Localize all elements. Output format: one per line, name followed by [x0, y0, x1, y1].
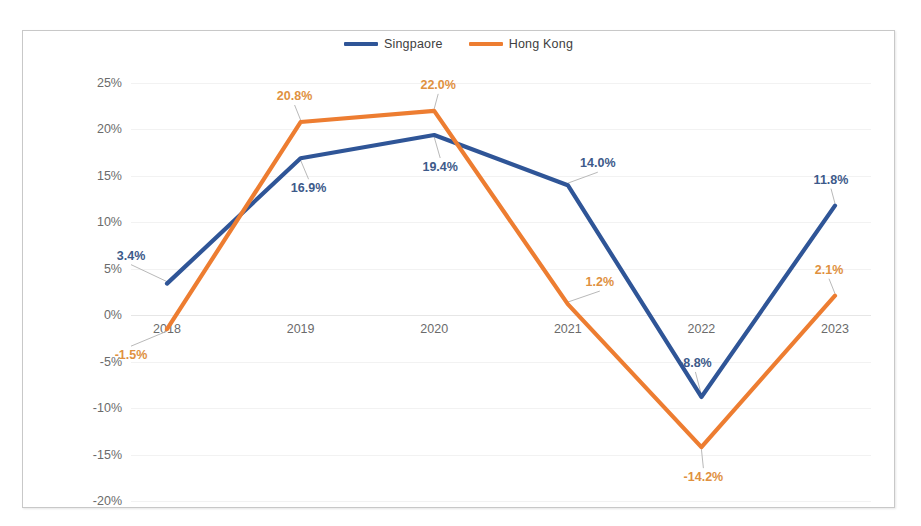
data-label-leader-line	[295, 105, 301, 120]
data-label-leader-line	[434, 94, 438, 109]
y-axis-tick-label: -15%	[93, 448, 122, 462]
y-axis-tick-label: 20%	[97, 122, 122, 136]
y-axis-tick-label: -20%	[93, 494, 122, 508]
series-layer	[131, 83, 871, 501]
data-label: 1.2%	[586, 275, 615, 289]
data-label-leader-line	[131, 265, 167, 282]
bottom-cutoff-caption	[26, 514, 486, 526]
data-label-leader-line	[301, 160, 309, 179]
data-label: 22.0%	[420, 78, 455, 92]
data-label: 11.8%	[814, 173, 849, 187]
y-axis-tick-label: 5%	[104, 262, 122, 276]
data-label: 3.4%	[117, 249, 146, 263]
legend-swatch-hong-kong	[469, 42, 503, 46]
data-label-leader-line	[701, 449, 703, 468]
data-label-leader-line	[131, 331, 167, 346]
legend-swatch-singapore	[344, 42, 378, 46]
legend-item-hong-kong[interactable]: Hong Kong	[469, 37, 573, 51]
data-label-leader-line	[568, 172, 598, 183]
data-label-leader-line	[434, 137, 440, 158]
plot-area: 25%20%15%10%5%0%-5%-10%-15%-20% 20182019…	[131, 83, 871, 501]
data-label: -14.2%	[684, 470, 724, 484]
data-label-leader-line	[831, 189, 835, 204]
data-label: 19.4%	[422, 160, 457, 174]
data-label: 16.9%	[291, 181, 326, 195]
data-label: 2.1%	[815, 263, 844, 277]
y-axis-tick-label: 15%	[97, 169, 122, 183]
chart-legend: Singpaore Hong Kong	[23, 37, 894, 51]
data-label: -8.8%	[679, 356, 712, 370]
data-label: 14.0%	[580, 156, 615, 170]
data-label-leader-line	[568, 291, 600, 302]
y-axis-tick-label: 25%	[97, 76, 122, 90]
y-axis-tick-label: 0%	[104, 308, 122, 322]
y-axis-tick-label: 10%	[97, 215, 122, 229]
data-label-leader-line	[829, 279, 835, 294]
legend-label-hong-kong: Hong Kong	[509, 37, 573, 51]
y-axis-tick-label: -10%	[93, 401, 122, 415]
legend-item-singapore[interactable]: Singpaore	[344, 37, 443, 51]
data-label: 20.8%	[277, 89, 312, 103]
legend-label-singapore: Singpaore	[384, 37, 443, 51]
gridline	[131, 501, 871, 502]
data-label: -1.5%	[115, 348, 148, 362]
chart-container: Singpaore Hong Kong 25%20%15%10%5%0%-5%-…	[22, 30, 895, 508]
